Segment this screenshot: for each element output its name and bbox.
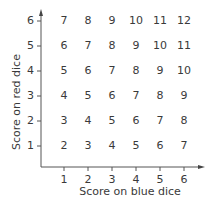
grid-cell: 7: [52, 15, 76, 27]
y-tick-label: 2: [22, 115, 34, 127]
grid-cell: 6: [100, 90, 124, 102]
x-tick-label: 1: [57, 174, 71, 186]
grid-cell: 8: [124, 65, 148, 77]
grid-cell: 5: [52, 65, 76, 77]
grid-cell: 6: [52, 40, 76, 52]
grid-cell: 8: [76, 15, 100, 27]
grid-cell: 7: [76, 40, 100, 52]
y-axis-title: Score on red dice: [11, 54, 23, 150]
y-tick-label: 6: [22, 15, 34, 27]
grid-cell: 2: [52, 140, 76, 152]
grid-cell: 4: [52, 90, 76, 102]
y-tick-label: 4: [22, 65, 34, 77]
grid-cell: 11: [148, 15, 172, 27]
grid-cell: 3: [76, 140, 100, 152]
grid-cell: 11: [172, 40, 196, 52]
grid-cell: 6: [148, 140, 172, 152]
grid-cell: 10: [148, 40, 172, 52]
y-tick-label: 5: [22, 40, 34, 52]
y-tick-label: 3: [22, 90, 34, 102]
grid-cell: 7: [172, 140, 196, 152]
grid-cell: 4: [100, 140, 124, 152]
grid-cell: 10: [172, 65, 196, 77]
grid-cell: 6: [76, 65, 100, 77]
grid-cell: 9: [172, 90, 196, 102]
grid-cell: 10: [124, 15, 148, 27]
grid-cell: 7: [100, 65, 124, 77]
x-axis-title: Score on blue dice: [60, 186, 200, 198]
grid-cell: 9: [148, 65, 172, 77]
grid-cell: 5: [76, 90, 100, 102]
grid-cell: 5: [124, 140, 148, 152]
grid-cell: 5: [100, 115, 124, 127]
grid-cell: 8: [148, 90, 172, 102]
grid-cell: 6: [124, 115, 148, 127]
grid-cell: 8: [172, 115, 196, 127]
grid-cell: 4: [76, 115, 100, 127]
grid-cell: 8: [100, 40, 124, 52]
grid-cell: 12: [172, 15, 196, 27]
grid-cell: 3: [52, 115, 76, 127]
grid-cell: 7: [148, 115, 172, 127]
y-tick-label: 1: [22, 140, 34, 152]
grid-cell: 9: [124, 40, 148, 52]
grid-cell: 9: [100, 15, 124, 27]
grid-cell: 7: [124, 90, 148, 102]
